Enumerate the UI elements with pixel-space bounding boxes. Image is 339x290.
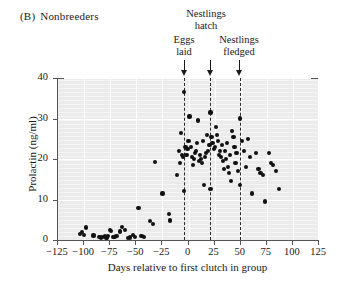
data-point <box>167 212 171 216</box>
data-point <box>267 151 271 155</box>
data-point <box>209 135 213 139</box>
x-tick-label: 125 <box>301 246 335 257</box>
figure-panel-b-nonbreeders: (B)Nonbreeders Nestlings hatch Eggs laid… <box>0 0 339 290</box>
data-point <box>123 228 127 232</box>
background-band <box>58 212 318 213</box>
x-tick <box>188 240 189 245</box>
data-point <box>213 145 217 149</box>
x-tick <box>161 240 162 245</box>
data-point <box>261 173 265 177</box>
data-point <box>160 191 164 195</box>
data-point <box>215 133 219 137</box>
event-line-nestlings-fledged <box>240 78 241 240</box>
x-axis-label: Days relative to first clutch in group <box>57 261 318 273</box>
y-tick <box>53 159 58 160</box>
background-band <box>58 120 318 121</box>
data-point <box>168 218 172 222</box>
x-tick <box>240 240 241 245</box>
data-point <box>187 114 191 118</box>
plot-area <box>58 78 318 240</box>
annotation-nestlings-fledged-line1: Nestlings <box>201 34 277 46</box>
panel-tag: (B) <box>20 10 35 22</box>
background-band <box>58 132 318 133</box>
data-point <box>233 161 237 165</box>
y-tick-label: 0 <box>22 233 48 244</box>
background-band <box>58 200 318 201</box>
data-point <box>142 235 146 239</box>
event-line-nestlings-hatch <box>210 78 211 240</box>
background-band <box>58 204 318 205</box>
background-band <box>58 184 318 185</box>
annotation-nestlings-hatch-line2: hatch <box>166 20 246 32</box>
x-tick <box>109 240 110 245</box>
panel-title: Nonbreeders <box>40 10 98 22</box>
event-line-eggs-laid <box>184 78 185 240</box>
background-band <box>58 220 318 221</box>
data-point <box>263 199 267 203</box>
data-point <box>91 233 95 237</box>
x-tick <box>83 240 84 245</box>
data-point <box>189 145 193 149</box>
x-tick <box>214 240 215 245</box>
background-band <box>58 112 318 113</box>
data-point <box>192 157 196 161</box>
background-band <box>58 104 318 105</box>
arrow-nestlings-hatch-icon <box>206 60 215 76</box>
arrow-eggs-laid-icon <box>180 60 189 76</box>
data-point <box>218 149 222 153</box>
arrow-nestlings-fledged-icon <box>235 60 244 76</box>
data-point <box>84 225 88 229</box>
data-point <box>216 139 220 143</box>
annotation-nestlings-fledged-line2: fledged <box>201 46 277 58</box>
background-band <box>58 124 318 125</box>
background-band <box>58 80 318 81</box>
background-band <box>58 232 318 233</box>
x-tick <box>292 240 293 245</box>
background-band <box>58 100 318 101</box>
background-band <box>58 168 318 169</box>
frame-cap-top-right <box>311 78 318 79</box>
background-band <box>58 144 318 145</box>
y-tick <box>53 119 58 120</box>
y-tick <box>53 240 58 241</box>
background-band <box>58 136 318 137</box>
data-point <box>238 116 242 120</box>
data-point <box>195 141 199 145</box>
data-point <box>214 125 218 129</box>
background-band <box>58 160 318 161</box>
y-tick <box>53 200 58 201</box>
data-point <box>191 163 195 167</box>
data-point <box>118 229 122 233</box>
data-point <box>246 137 250 141</box>
background-band <box>58 96 318 97</box>
background-band <box>58 228 318 229</box>
data-point <box>232 145 236 149</box>
background-band <box>58 88 318 89</box>
data-point <box>208 110 212 114</box>
background-band <box>58 84 318 85</box>
x-tick <box>135 240 136 245</box>
data-point <box>184 153 188 157</box>
background-band <box>58 224 318 225</box>
data-point <box>236 169 240 173</box>
panel-label: (B)Nonbreeders <box>20 10 99 22</box>
data-point <box>114 234 118 238</box>
annotation-nestlings-hatch: Nestlings hatch <box>166 8 246 32</box>
data-point <box>250 191 254 195</box>
background-band <box>58 176 318 177</box>
background-band <box>58 180 318 181</box>
background-band <box>58 128 318 129</box>
x-tick <box>57 240 58 245</box>
plot-frame <box>57 78 318 240</box>
data-point <box>240 139 244 143</box>
data-point <box>196 118 200 122</box>
data-point <box>231 135 235 139</box>
data-point <box>234 151 238 155</box>
annotation-nestlings-hatch-line1: Nestlings <box>166 8 246 20</box>
background-band <box>58 216 318 217</box>
x-tick <box>318 240 319 245</box>
annotation-nestlings-fledged: Nestlings fledged <box>201 34 277 58</box>
data-point <box>194 149 198 153</box>
y-tick <box>53 78 58 79</box>
background-band <box>58 192 318 193</box>
